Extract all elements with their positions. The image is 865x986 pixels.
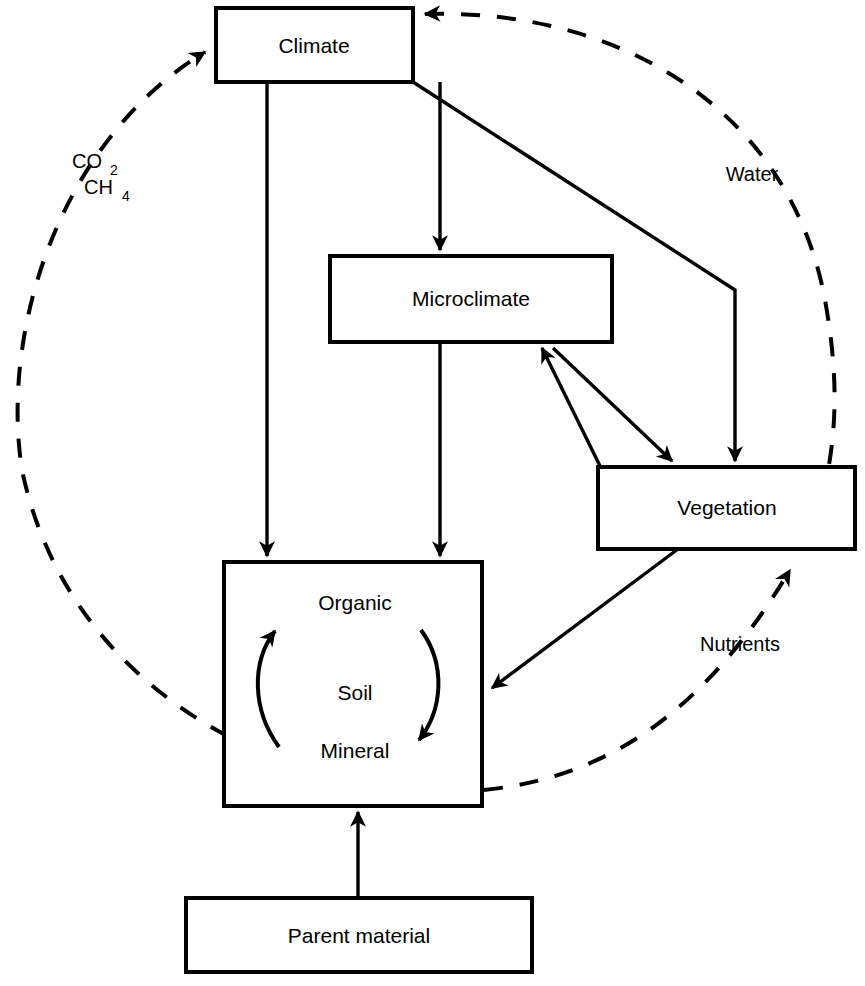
edge-label-ch4-subscript: 4 [122, 188, 130, 204]
node-parent-material-label: Parent material [288, 924, 430, 947]
diagram-canvas: Climate Microclimate Vegetation Organic … [0, 0, 865, 986]
node-soil-organic-label: Organic [318, 591, 392, 614]
diagram-root: Climate Microclimate Vegetation Organic … [0, 0, 865, 986]
node-soil[interactable]: Organic Soil Mineral [224, 562, 482, 806]
node-soil-mineral-label: Mineral [321, 739, 390, 762]
node-vegetation-label: Vegetation [677, 496, 776, 519]
node-vegetation[interactable]: Vegetation [598, 467, 855, 549]
node-climate-label: Climate [278, 34, 349, 57]
edge-label-water: Water [726, 163, 779, 185]
edge-label-co2: CO 2 [72, 150, 118, 178]
node-microclimate-label: Microclimate [412, 287, 530, 310]
node-microclimate[interactable]: Microclimate [330, 256, 612, 342]
edge-vegetation-to-soil [492, 549, 678, 688]
edge-nutrients-soil-vegetation [484, 570, 790, 790]
edge-label-ch4: CH 4 [84, 176, 130, 204]
edge-label-ch4-text: CH [84, 176, 113, 198]
edge-label-co2-text: CO [72, 150, 102, 172]
node-parent-material[interactable]: Parent material [186, 898, 532, 972]
edge-label-nutrients: Nutrients [700, 633, 780, 655]
node-soil-label: Soil [337, 681, 372, 704]
node-climate[interactable]: Climate [216, 8, 413, 82]
